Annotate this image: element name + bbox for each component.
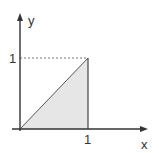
y-axis-label: y (28, 13, 35, 28)
y-tick-label: 1 (9, 51, 16, 66)
diagram-canvas: y x 1 1 (0, 0, 159, 153)
x-axis-label: x (141, 137, 148, 152)
x-axis-arrow-icon (140, 126, 148, 132)
y-axis-arrow-icon (17, 13, 23, 21)
x-tick-label: 1 (84, 132, 91, 147)
